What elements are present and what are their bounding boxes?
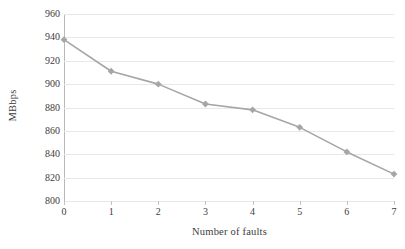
y-axis-tick-label: 800 (26, 196, 60, 206)
x-axis-tickmark (111, 201, 112, 205)
series-line (64, 40, 394, 174)
x-axis-tick-label: 6 (335, 206, 359, 218)
y-axis-tick-label: 900 (26, 79, 60, 89)
data-point-marker (343, 149, 350, 156)
x-axis-tick-label: 1 (99, 206, 123, 218)
y-axis-tick-label: 860 (26, 126, 60, 136)
data-point-marker (249, 106, 256, 113)
y-axis-tick-label: 960 (26, 9, 60, 19)
x-axis-tick-label: 2 (146, 206, 170, 218)
x-axis-tick-label: 5 (288, 206, 312, 218)
y-axis-tick-label: 820 (26, 173, 60, 183)
x-axis-tick-label: 3 (193, 206, 217, 218)
data-point-marker (296, 124, 303, 131)
y-axis-tick-label: 840 (26, 149, 60, 159)
y-axis-title: MBbps (0, 0, 26, 210)
line-chart: MBbps 800820840860880900920940960 012345… (0, 0, 405, 249)
data-point-marker (391, 171, 398, 178)
y-axis-title-label: MBbps (8, 89, 19, 121)
x-axis-tick-label: 4 (241, 206, 265, 218)
x-axis-tickmark (300, 201, 301, 205)
x-axis-tickmark (158, 201, 159, 205)
plot-area (64, 14, 394, 201)
data-series-mbbps (64, 14, 394, 201)
y-axis-tick-label: 940 (26, 32, 60, 42)
x-axis-tickmark (205, 201, 206, 205)
y-axis-tick-label: 880 (26, 103, 60, 113)
gridline (64, 201, 394, 202)
x-axis-tickmark (347, 201, 348, 205)
x-axis-tickmark (394, 201, 395, 205)
x-axis-tick-label: 7 (382, 206, 405, 218)
x-axis-tickmark (64, 201, 65, 205)
x-axis-tickmark (253, 201, 254, 205)
x-axis-title: Number of faults (64, 226, 395, 237)
x-axis-tick-label: 0 (52, 206, 76, 218)
y-axis-tick-label: 920 (26, 56, 60, 66)
data-point-marker (155, 81, 162, 88)
data-point-marker (202, 101, 209, 108)
